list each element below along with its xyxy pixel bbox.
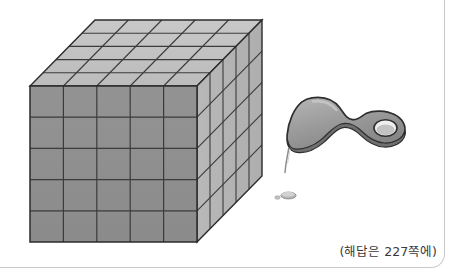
cut-sliver [275,192,296,200]
answer-page-caption: (해답은 227쪽에) [339,241,437,260]
illustration-page: (해답은 227쪽에) [0,0,455,274]
cube-and-peeler-illustration [0,0,455,274]
cube-front-face [30,86,197,242]
unit-cube-stack [30,20,262,242]
peeler-handle-hole-shadow [377,125,395,135]
peeler-tool [285,97,405,172]
